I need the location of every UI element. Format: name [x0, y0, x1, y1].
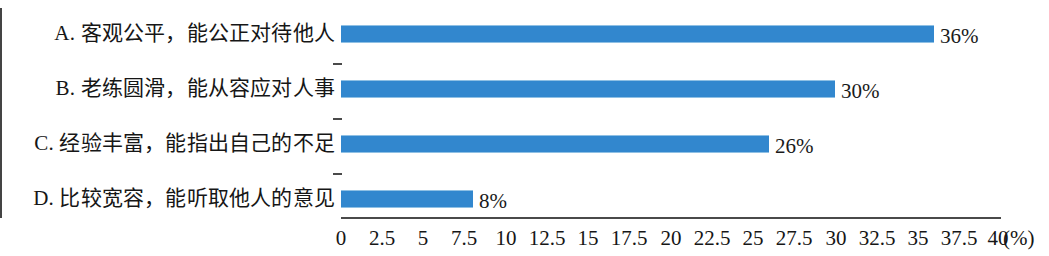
x-axis-line	[341, 217, 1001, 219]
bar-c	[341, 135, 769, 153]
x-tick-label-11: 27.5	[776, 226, 813, 250]
x-tick-label-7: 17.5	[611, 226, 648, 250]
category-label-b: B. 老练圆滑，能从容应对人事	[5, 76, 335, 100]
y-axis-line	[0, 8, 2, 218]
bar-value-b: 30%	[841, 82, 880, 100]
y-axis-tick	[333, 63, 342, 65]
bar-b	[341, 80, 835, 98]
bar-value-c: 26%	[775, 137, 814, 155]
x-tick-label-0: 0	[336, 226, 347, 250]
bar-a	[341, 25, 934, 43]
x-tick-label-10: 25	[743, 226, 764, 250]
x-tick-label-5: 12.5	[529, 226, 566, 250]
bar-value-a: 36%	[940, 27, 979, 45]
x-tick-label-12: 30	[826, 226, 847, 250]
x-tick-label-1: 2.5	[369, 226, 395, 250]
x-tick-label-8: 20	[661, 226, 682, 250]
x-tick-label-6: 15	[578, 226, 599, 250]
category-label-c: C. 经验丰富，能指出自己的不足	[5, 131, 335, 155]
category-label-d: D. 比较宽容，能听取他人的意见	[5, 186, 335, 210]
category-label-a: A. 客观公平，能公正对待他人	[5, 21, 335, 45]
x-tick-label-4: 10	[496, 226, 517, 250]
x-tick-label-3: 7.5	[451, 226, 477, 250]
bar-value-d: 8%	[479, 192, 507, 210]
x-tick-label-9: 22.5	[694, 226, 731, 250]
x-tick-label-13: 32.5	[859, 226, 896, 250]
x-axis-unit-label: (%)	[1003, 226, 1034, 250]
x-tick-label-15: 37.5	[941, 226, 978, 250]
y-axis-tick	[333, 118, 342, 120]
x-tick-label-2: 5	[418, 226, 429, 250]
bar-d	[341, 190, 473, 208]
x-tick-label-14: 35	[908, 226, 929, 250]
horizontal-bar-chart: A. 客观公平，能公正对待他人 B. 老练圆滑，能从容应对人事 C. 经验丰富，…	[0, 0, 1049, 256]
y-axis-tick	[333, 173, 342, 175]
